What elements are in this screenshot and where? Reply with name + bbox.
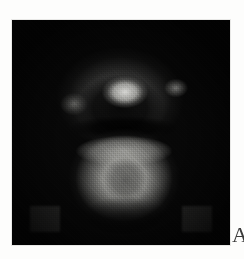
corner-block-right: [182, 206, 212, 232]
page-background: A: [0, 0, 244, 259]
caption-partial-letter: A: [232, 222, 244, 248]
corner-block-left: [30, 206, 60, 232]
grayscale-scan-image: [12, 20, 230, 245]
